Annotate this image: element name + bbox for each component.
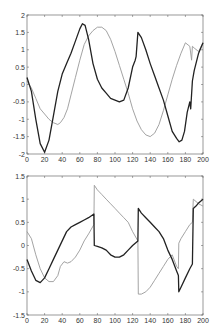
x-tick-label: 40: [58, 156, 66, 163]
y-tick-label: 1.5: [15, 173, 25, 180]
series-dark-line: [27, 199, 203, 292]
y-tick-label: -0.5: [13, 98, 25, 105]
x-tick-label: 140: [144, 156, 156, 163]
x-tick-label: 180: [180, 317, 192, 324]
x-tick-label: 200: [197, 156, 209, 163]
y-tick-label: 1: [21, 46, 25, 53]
x-tick-label: 40: [58, 317, 66, 324]
x-tick-label: 80: [94, 156, 102, 163]
x-tick-label: 100: [109, 156, 121, 163]
y-tick-label: 0: [21, 242, 25, 249]
y-tick-label: -1.5: [13, 133, 25, 140]
x-tick-label: 160: [162, 156, 174, 163]
x-tick-label: 160: [162, 317, 174, 324]
x-tick-label: 20: [41, 317, 49, 324]
y-tick-label: -1: [19, 116, 25, 123]
x-tick-label: 60: [76, 156, 84, 163]
x-tick-label: 60: [76, 317, 84, 324]
y-tick-label: 1: [21, 196, 25, 203]
y-tick-label: -1.5: [13, 312, 25, 319]
y-tick-label: -0.5: [13, 265, 25, 272]
x-tick-label: 200: [197, 317, 209, 324]
axes-box: [27, 15, 203, 154]
x-tick-label: 140: [144, 317, 156, 324]
x-tick-label: 20: [41, 156, 49, 163]
top-plot: 020406080100120140160180200-2-1.5-1-0.50…: [13, 12, 209, 164]
y-tick-label: -1: [19, 288, 25, 295]
x-tick-label: 80: [94, 317, 102, 324]
axes-box: [27, 176, 203, 315]
y-tick-label: -2: [19, 151, 25, 158]
bottom-plot: 020406080100120140160180200-1.5-1-0.500.…: [13, 173, 209, 325]
y-tick-label: 0.5: [15, 219, 25, 226]
x-tick-label: 180: [180, 156, 192, 163]
y-tick-label: 2: [21, 12, 25, 19]
y-tick-label: 0.5: [15, 64, 25, 71]
series-light-line: [27, 185, 203, 294]
x-tick-label: 120: [127, 156, 139, 163]
series-light-line: [27, 27, 203, 136]
x-tick-label: 100: [109, 317, 121, 324]
x-tick-label: 0: [25, 317, 29, 324]
figure: 020406080100120140160180200-2-1.5-1-0.50…: [0, 0, 219, 332]
y-tick-label: 0: [21, 81, 25, 88]
x-tick-label: 120: [127, 317, 139, 324]
y-tick-label: 1.5: [15, 29, 25, 36]
series-dark-line: [27, 24, 203, 153]
x-tick-label: 0: [25, 156, 29, 163]
